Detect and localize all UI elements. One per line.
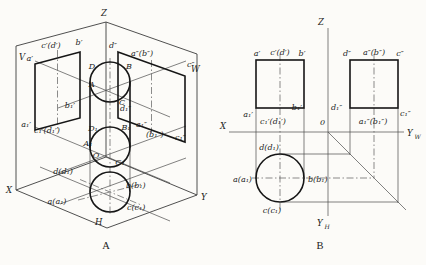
x-axis-label-b: X bbox=[219, 121, 227, 131]
y-axis-label: Y bbox=[201, 192, 208, 202]
figure-a-labels: Z V W X Y H a′ c′(d′) b′ a₁′ c₁′(d₁′) b₁… bbox=[5, 8, 208, 251]
projection-box bbox=[16, 22, 197, 228]
yw-axis-sub: W bbox=[415, 133, 422, 140]
box-outline bbox=[16, 22, 197, 228]
v-plane-label: V bbox=[19, 52, 26, 62]
z-axis-label: Z bbox=[100, 8, 108, 18]
profile-top-mid-label: a″(b″) bbox=[131, 49, 153, 58]
hview-d-label: d(d₁) bbox=[53, 167, 73, 176]
descriptive-geometry-figure: Z V W X Y H a′ c′(d′) b′ a₁′ c₁′(d₁′) b₁… bbox=[0, 0, 426, 265]
z-axis-label-b: Z bbox=[317, 17, 325, 27]
b-front-bottom-left: a₁′ bbox=[243, 110, 253, 119]
h-plane-label: H bbox=[94, 217, 103, 227]
point-a1-label: A₁ bbox=[83, 139, 93, 148]
b-profile-top-mid: a″(b″) bbox=[363, 48, 385, 57]
origin-label-b: 0 bbox=[320, 118, 325, 127]
front-bottom-mid-label: c₁′(d₁′) bbox=[34, 126, 60, 135]
figure-b-labels: Z X Y W Y H 0 a′ c′(d′) b′ a₁′ c₁′(d₁′) … bbox=[219, 17, 422, 251]
hview-b-label: b(b₁) bbox=[126, 181, 146, 190]
profile-bottom-mid-b-label: (b₁″) bbox=[146, 130, 164, 139]
point-d1-label: D₁ bbox=[87, 124, 98, 133]
b-top-view-c: c(c₁) bbox=[263, 206, 281, 215]
point-c1-label: C₁ bbox=[115, 158, 124, 167]
b-profile-bottom-mid: a₁″(b₁″) bbox=[359, 117, 388, 126]
miter-line bbox=[328, 132, 406, 210]
b-top-view-b: b(b₁) bbox=[308, 175, 328, 184]
figure-a: Z V W X Y H a′ c′(d′) b′ a₁′ c₁′(d₁′) b₁… bbox=[5, 8, 208, 251]
center-lines-b bbox=[252, 54, 374, 212]
figure-b-caption: B bbox=[316, 240, 323, 251]
yw-axis-label: Y bbox=[407, 128, 414, 138]
x-axis-label: X bbox=[5, 185, 13, 195]
profile-top-left-label: d″ bbox=[109, 41, 117, 50]
b-top-view-d: d(d₁) bbox=[259, 143, 279, 152]
yh-axis-label: Y bbox=[317, 218, 324, 228]
figure-b: Z X Y W Y H 0 a′ c′(d′) b′ a₁′ c₁′(d₁′) … bbox=[219, 17, 422, 251]
b-top-view-a: a(a₁) bbox=[233, 175, 252, 184]
figure-a-caption: A bbox=[102, 240, 110, 251]
front-bottom-left-label: a₁′ bbox=[21, 120, 31, 129]
b-front-top-left: a′ bbox=[254, 49, 261, 58]
front-top-right-label: b′ bbox=[76, 38, 83, 47]
hview-c-label: c(c₁) bbox=[127, 203, 145, 212]
b-front-bottom-right: b₁′ bbox=[292, 103, 302, 112]
point-c-label: C bbox=[119, 98, 125, 107]
b-front-top-mid: c′(d′) bbox=[270, 48, 289, 57]
profile-top-right-label: c″ bbox=[187, 60, 194, 69]
diagram-canvas: Z V W X Y H a′ c′(d′) b′ a₁′ c₁′(d₁′) b₁… bbox=[0, 0, 426, 265]
point-a-label: A bbox=[88, 80, 95, 89]
yh-axis-sub: H bbox=[324, 223, 331, 230]
point-b1-label: B₁ bbox=[120, 123, 130, 132]
point-b-label: B bbox=[125, 62, 132, 71]
b-front-bottom-mid: c₁′(d₁′) bbox=[260, 117, 286, 126]
profile-bottom-right-label: c₁″ bbox=[175, 133, 186, 142]
center-lines bbox=[58, 50, 152, 216]
b-front-top-right: b′ bbox=[299, 49, 306, 58]
front-bottom-right-label: b₁′ bbox=[65, 101, 75, 110]
front-top-left-label: a′ bbox=[26, 54, 33, 63]
point-d-label: D bbox=[88, 62, 96, 71]
b-profile-bottom-left: d₁″ bbox=[331, 103, 342, 112]
front-top-mid-label: c′(d′) bbox=[41, 41, 60, 50]
b-profile-top-left: d″ bbox=[343, 49, 351, 58]
profile-bottom-mid-a-label: a₁″ bbox=[136, 120, 147, 129]
b-profile-bottom-right: c₁″ bbox=[400, 109, 411, 118]
b-profile-top-right: c″ bbox=[396, 49, 403, 58]
hview-a-label: a(a₁) bbox=[48, 197, 67, 206]
origin-label-a: O bbox=[93, 151, 100, 160]
